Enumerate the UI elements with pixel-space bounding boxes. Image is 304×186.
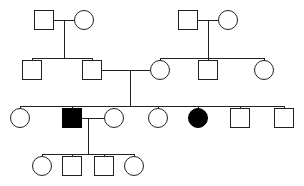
individual-I-4-female-unaffected[interactable] xyxy=(218,10,238,30)
individual-III-1-female-unaffected[interactable] xyxy=(10,108,30,128)
sibship-line-mating-4 xyxy=(42,154,134,155)
sibship-line-mating-3 xyxy=(20,106,284,107)
mating-line-III-2-III-3 xyxy=(82,118,104,119)
individual-III-5-female-affected[interactable] xyxy=(188,108,208,128)
descent-line-mating-2 xyxy=(208,20,209,58)
individual-IV-3-male-unaffected[interactable] xyxy=(94,156,114,176)
individual-III-7-male-unaffected[interactable] xyxy=(274,108,294,128)
descent-line-mating-1 xyxy=(64,20,65,58)
individual-II-5-female-unaffected[interactable] xyxy=(254,60,274,80)
individual-I-2-female-unaffected[interactable] xyxy=(74,10,94,30)
individual-I-3-male-unaffected[interactable] xyxy=(178,10,198,30)
individual-II-1-male-unaffected[interactable] xyxy=(22,60,42,80)
individual-I-1-male-unaffected[interactable] xyxy=(34,10,54,30)
descent-line-mating-4 xyxy=(88,118,89,154)
mating-line-II-2-II-3 xyxy=(102,70,150,71)
individual-II-3-female-unaffected[interactable] xyxy=(150,60,170,80)
individual-III-4-female-unaffected[interactable] xyxy=(148,108,168,128)
descent-line-mating-3 xyxy=(130,70,131,106)
pedigree-chart: Four-generation pedigree chart with squa… xyxy=(0,0,304,186)
individual-IV-1-female-unaffected[interactable] xyxy=(32,156,52,176)
individual-III-3-female-unaffected[interactable] xyxy=(104,108,124,128)
sibship-line-mating-1 xyxy=(32,58,92,59)
individual-III-2-male-affected[interactable] xyxy=(62,108,82,128)
figure-alt-text: Four-generation pedigree chart with squa… xyxy=(0,0,1,1)
individual-II-4-male-unaffected[interactable] xyxy=(198,60,218,80)
individual-II-2-male-unaffected[interactable] xyxy=(82,60,102,80)
sibship-line-mating-2 xyxy=(160,58,264,59)
individual-III-6-male-unaffected[interactable] xyxy=(230,108,250,128)
individual-IV-2-male-unaffected[interactable] xyxy=(62,156,82,176)
individual-IV-4-female-unaffected[interactable] xyxy=(124,156,144,176)
